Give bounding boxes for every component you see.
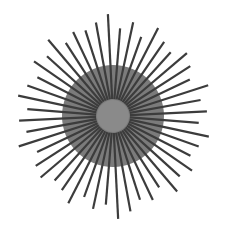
radial-figure bbox=[0, 0, 226, 234]
inner-circle bbox=[97, 100, 129, 132]
